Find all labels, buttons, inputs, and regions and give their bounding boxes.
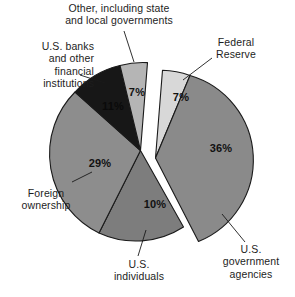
slice-value-federal-reserve: 7% <box>173 91 189 103</box>
slice-value-us-government-agencies: 36% <box>210 142 233 154</box>
slice-value-foreign-ownership: 29% <box>89 157 112 169</box>
slice-value-us-banks: 11% <box>102 100 124 112</box>
slice-value-us-individuals: 10% <box>144 198 167 210</box>
label-other-state-local-governments: Other, including state and local governm… <box>55 2 183 27</box>
pie-chart: 7% 11% 29% 10% 7% 36% Other, including s… <box>0 0 295 297</box>
leader-line-us-government-agencies <box>222 214 245 242</box>
leader-line-other <box>124 31 134 62</box>
slice-value-other: 7% <box>129 86 145 98</box>
label-us-banks-financial-institutions: U.S. banks and other financial instituti… <box>2 40 94 90</box>
label-us-individuals: U.S. individuals <box>100 258 178 283</box>
label-us-government-agencies: U.S. government agencies <box>209 243 293 280</box>
label-federal-reserve: Federal Reserve <box>196 36 276 61</box>
leader-line-federal-reserve <box>183 58 212 80</box>
label-foreign-ownership: Foreign ownership <box>2 187 90 212</box>
